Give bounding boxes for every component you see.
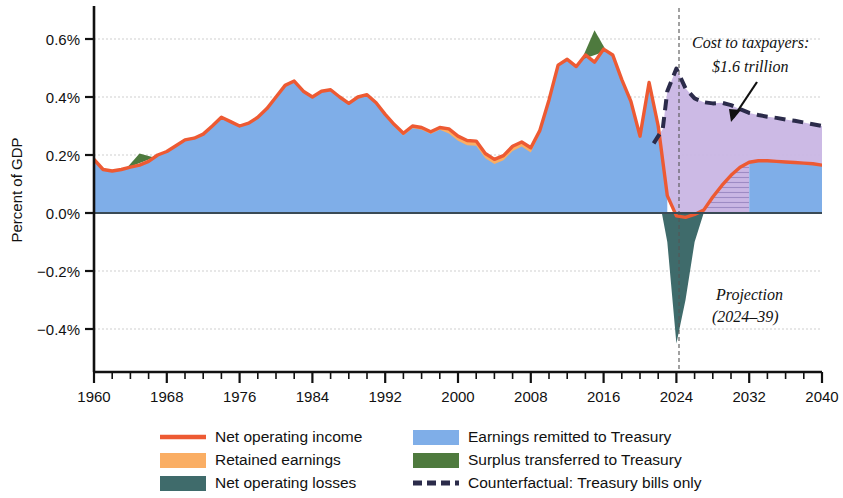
legend-item[interactable]: Counterfactual: Treasury bills only (413, 474, 702, 491)
y-tick-label: −0.4% (37, 321, 80, 338)
percent-of-gdp-area-chart: 0.6%0.4%0.2%0.0%−0.2%−0.4% 1960196819761… (0, 0, 843, 498)
y-axis-ticks (85, 39, 94, 329)
x-tick-label: 1992 (369, 388, 402, 405)
legend-item[interactable]: Net operating income (160, 428, 362, 445)
x-tick-label: 1984 (296, 388, 329, 405)
legend-swatch-box (413, 430, 459, 445)
legend-item[interactable]: Earnings remitted to Treasury (413, 428, 672, 445)
x-tick-label: 1960 (77, 388, 110, 405)
legend-item[interactable]: Retained earnings (160, 451, 341, 468)
y-tick-label: 0.2% (46, 147, 80, 164)
legend-swatch-box (160, 453, 206, 468)
cost-annotation-line2: $1.6 trillion (712, 58, 788, 75)
x-axis-ticks (94, 372, 822, 383)
y-tick-label: 0.4% (46, 89, 80, 106)
cost-annotation-line1: Cost to taxpayers: (692, 34, 809, 52)
y-tick-label: −0.2% (37, 263, 80, 280)
legend-label: Earnings remitted to Treasury (468, 428, 672, 445)
x-tick-label: 1968 (150, 388, 183, 405)
legend-label: Retained earnings (215, 451, 341, 468)
x-tick-label: 2016 (587, 388, 620, 405)
x-tick-label: 2032 (733, 388, 766, 405)
y-tick-label: 0.6% (46, 31, 80, 48)
x-tick-label: 2040 (805, 388, 838, 405)
legend-swatch-box (160, 476, 206, 491)
x-tick-label: 1976 (223, 388, 256, 405)
legend-label: Counterfactual: Treasury bills only (468, 474, 702, 491)
chart-legend: Net operating incomeRetained earningsNet… (160, 428, 702, 491)
chart-container: 0.6%0.4%0.2%0.0%−0.2%−0.4% 1960196819761… (0, 0, 843, 498)
legend-item[interactable]: Surplus transferred to Treasury (413, 451, 682, 468)
projection-annotation: Projection (2024–39) (712, 286, 783, 326)
x-tick-label: 2024 (660, 388, 693, 405)
net-operating-losses-area (662, 213, 704, 344)
y-axis-title: Percent of GDP (8, 137, 25, 242)
legend-swatch-box (413, 453, 459, 468)
x-tick-label: 2000 (441, 388, 474, 405)
legend-label: Surplus transferred to Treasury (468, 451, 682, 468)
x-tick-label: 2008 (514, 388, 547, 405)
legend-label: Net operating losses (215, 474, 357, 491)
projection-annotation-line1: Projection (715, 286, 783, 304)
y-tick-label: 0.0% (46, 205, 80, 222)
y-axis-tick-labels: 0.6%0.4%0.2%0.0%−0.2%−0.4% (37, 31, 80, 338)
legend-item[interactable]: Net operating losses (160, 474, 357, 491)
plot-areas (94, 30, 822, 343)
projection-annotation-line2: (2024–39) (712, 308, 779, 326)
x-axis-tick-labels: 1960196819761984199220002008201620242032… (77, 388, 838, 405)
legend-label: Net operating income (215, 428, 362, 445)
